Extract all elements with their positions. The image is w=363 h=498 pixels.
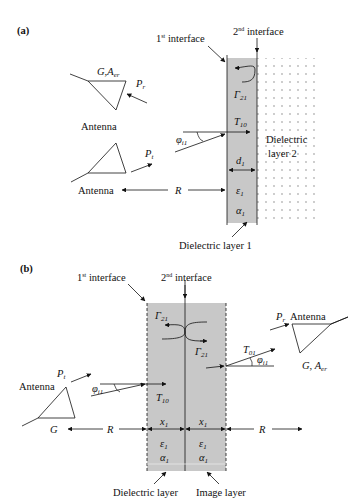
tx-antenna-icon-b: [22, 387, 75, 426]
dielectric-layer-label: Dielectric layer: [113, 487, 179, 498]
rx-antenna-label: Antenna: [81, 121, 117, 132]
pr-arrow: [127, 94, 147, 103]
t01-label: T01: [243, 344, 256, 357]
first-interface-label: 1st interface: [156, 33, 205, 44]
first-interface-label-b: 1st interface: [77, 272, 126, 283]
layer1-arrow: [232, 222, 247, 237]
pt-label: Pt: [144, 148, 154, 161]
panel-a-label: (a): [17, 25, 30, 37]
second-interface-label: 2nd interface: [233, 26, 284, 37]
dielectric-and-image-layer: [147, 303, 226, 471]
r-left-label: R: [106, 424, 114, 435]
pt-arrow-b: [71, 374, 91, 382]
first-interface-arrow-b: [128, 284, 145, 301]
gain-label-b: G: [50, 424, 58, 435]
pr-label-b: Pr: [275, 311, 285, 324]
rx-params-b: G, Aer: [302, 360, 327, 373]
image-layer-label: Image layer: [196, 487, 246, 498]
rx-antenna-label-b: Antenna: [290, 311, 326, 322]
image-layer-arrow: [207, 472, 219, 484]
panel-a: (a) 1st interface 2nd interface Γ21 T10 …: [17, 25, 317, 251]
phi-exit-label: φi1: [257, 354, 268, 367]
angle-arc-exit: [250, 358, 252, 366]
phi-label: φi1: [176, 134, 187, 147]
rx-antenna-params: G,Aer: [97, 66, 120, 79]
tx-antenna-label: Antenna: [78, 185, 114, 196]
tx-antenna-label-b: Antenna: [19, 381, 55, 392]
rx-antenna-icon: [70, 74, 126, 110]
phi-label-b: φi1: [92, 383, 103, 396]
tx-antenna-icon: [71, 143, 126, 182]
r-label: R: [174, 185, 182, 196]
dielectric-layer-1: [227, 58, 257, 223]
dielectric-layer-arrow: [154, 472, 166, 484]
pt-label-b: Pt: [56, 368, 66, 381]
panel-b-label: (b): [20, 263, 33, 275]
pr-label: Pr: [135, 78, 145, 91]
rx-antenna-icon-b: [292, 317, 348, 353]
angle-arc: [197, 132, 203, 141]
second-interface-label-b: 2nd interface: [161, 272, 212, 283]
pr-arrow-b: [270, 324, 289, 330]
r-right-label: R: [258, 424, 266, 435]
panel-b: (b) 1st interface 2nd interface Γ21 Γ21 …: [19, 263, 348, 498]
diagram-canvas: (a) 1st interface 2nd interface Γ21 T10 …: [0, 0, 363, 498]
layer1-label: Dielectric layer 1: [179, 240, 252, 251]
layer2-label-1: Dielectric: [266, 134, 308, 145]
pt-arrow: [131, 164, 152, 172]
layer2-label-2: layer 2: [268, 148, 297, 159]
first-interface-arrow: [208, 46, 225, 62]
